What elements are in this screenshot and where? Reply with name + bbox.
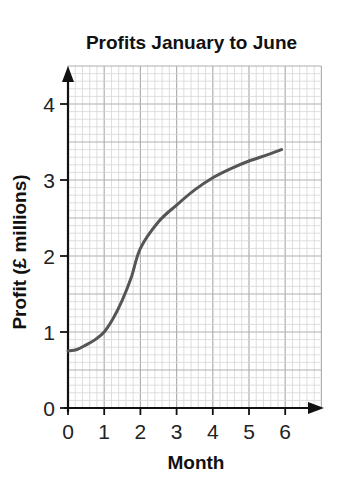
x-tick-label: 2	[135, 420, 147, 443]
y-tick-label: 4	[43, 93, 55, 116]
y-tick-label: 2	[43, 245, 55, 268]
x-tick-label: 0	[62, 420, 74, 443]
tick-labels: 012345601234	[43, 93, 291, 443]
x-tick-label: 4	[207, 420, 219, 443]
x-tick-label: 1	[98, 420, 110, 443]
y-tick-label: 3	[43, 169, 55, 192]
x-tick-label: 6	[279, 420, 291, 443]
y-tick-label: 1	[43, 321, 55, 344]
x-tick-label: 5	[243, 420, 255, 443]
plot-area: 012345601234	[0, 0, 355, 498]
x-tick-label: 3	[171, 420, 183, 443]
y-tick-label: 0	[43, 397, 55, 420]
grid	[68, 66, 321, 408]
